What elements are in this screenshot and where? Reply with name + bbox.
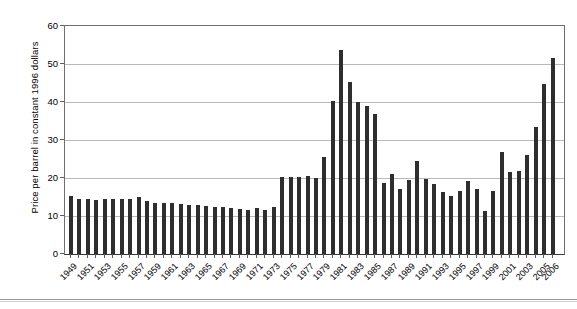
x-tick-mark [154, 254, 155, 258]
x-tick-mark [138, 254, 139, 258]
x-tick-mark [256, 254, 257, 258]
bar [373, 114, 377, 254]
x-tick-mark [298, 254, 299, 258]
plot-area [64, 25, 565, 255]
y-tick-label: 30 [18, 134, 58, 145]
bar [86, 199, 90, 254]
bar [500, 152, 504, 254]
x-tick-mark [239, 254, 240, 258]
x-tick-mark [416, 254, 417, 258]
x-tick-mark [340, 254, 341, 258]
gridline [65, 102, 564, 103]
x-tick-mark [163, 254, 164, 258]
bar [128, 199, 132, 254]
x-tick-mark [180, 254, 181, 258]
x-tick-mark [264, 254, 265, 258]
x-tick-mark [273, 254, 274, 258]
bar [466, 181, 470, 254]
x-tick-mark [129, 254, 130, 258]
bar [221, 207, 225, 254]
x-tick-mark [230, 254, 231, 258]
x-tick-mark [188, 254, 189, 258]
x-tick-mark [518, 254, 519, 258]
bar [196, 205, 200, 254]
bar [424, 179, 428, 254]
bar [525, 155, 529, 254]
x-tick-mark [433, 254, 434, 258]
x-tick-mark [383, 254, 384, 258]
bar [229, 208, 233, 254]
x-tick-mark [366, 254, 367, 258]
y-tick-label: 20 [18, 172, 58, 183]
bar [289, 177, 293, 254]
bar [238, 209, 242, 254]
x-tick-mark [552, 254, 553, 258]
x-tick-mark [501, 254, 502, 258]
x-tick-mark [442, 254, 443, 258]
bar [331, 101, 335, 254]
bar [255, 208, 259, 254]
bar [272, 207, 276, 254]
x-tick-mark [476, 254, 477, 258]
bar [162, 203, 166, 254]
bar [69, 196, 73, 254]
x-tick-mark [349, 254, 350, 258]
footer-divider [0, 299, 577, 300]
x-tick-mark [315, 254, 316, 258]
x-tick-mark [104, 254, 105, 258]
x-tick-mark [357, 254, 358, 258]
bar [297, 177, 301, 254]
bar [356, 102, 360, 254]
bar [111, 199, 115, 254]
bar [542, 84, 546, 254]
x-tick-mark [171, 254, 172, 258]
bar [348, 82, 352, 254]
x-tick-mark [205, 254, 206, 258]
y-tick-label: 50 [18, 58, 58, 69]
bar [365, 106, 369, 254]
x-tick-mark [87, 254, 88, 258]
gridline [65, 64, 564, 65]
bar [280, 177, 284, 254]
x-tick-mark [492, 254, 493, 258]
bar [103, 199, 107, 254]
x-tick-mark [374, 254, 375, 258]
bar [483, 211, 487, 254]
x-tick-mark [535, 254, 536, 258]
bar [120, 199, 124, 254]
bar [187, 205, 191, 254]
x-tick-mark [146, 254, 147, 258]
x-tick-mark [70, 254, 71, 258]
x-tick-mark [543, 254, 544, 258]
bar [179, 204, 183, 254]
footer-divider-secondary [0, 301, 577, 302]
bar [415, 161, 419, 254]
y-tick-label: 60 [18, 20, 58, 31]
x-tick-mark [121, 254, 122, 258]
bar [145, 201, 149, 254]
bar [432, 184, 436, 254]
x-tick-mark [425, 254, 426, 258]
bar [339, 50, 343, 254]
bar [137, 197, 141, 254]
x-tick-mark [467, 254, 468, 258]
x-tick-mark [399, 254, 400, 258]
y-tick-label: 10 [18, 210, 58, 221]
bar [94, 200, 98, 254]
x-tick-mark [112, 254, 113, 258]
bar [77, 199, 81, 254]
x-tick-mark [484, 254, 485, 258]
x-tick-mark [332, 254, 333, 258]
x-tick-mark [281, 254, 282, 258]
x-tick-mark [290, 254, 291, 258]
x-tick-mark [78, 254, 79, 258]
x-tick-mark [408, 254, 409, 258]
x-tick-mark [450, 254, 451, 258]
chart-figure: Price per barrel in constant 1996 dollar… [0, 0, 577, 309]
bar [213, 207, 217, 254]
bar [517, 171, 521, 254]
y-tick-label: 40 [18, 96, 58, 107]
bar [382, 183, 386, 254]
bar [153, 203, 157, 254]
bar [246, 210, 250, 254]
